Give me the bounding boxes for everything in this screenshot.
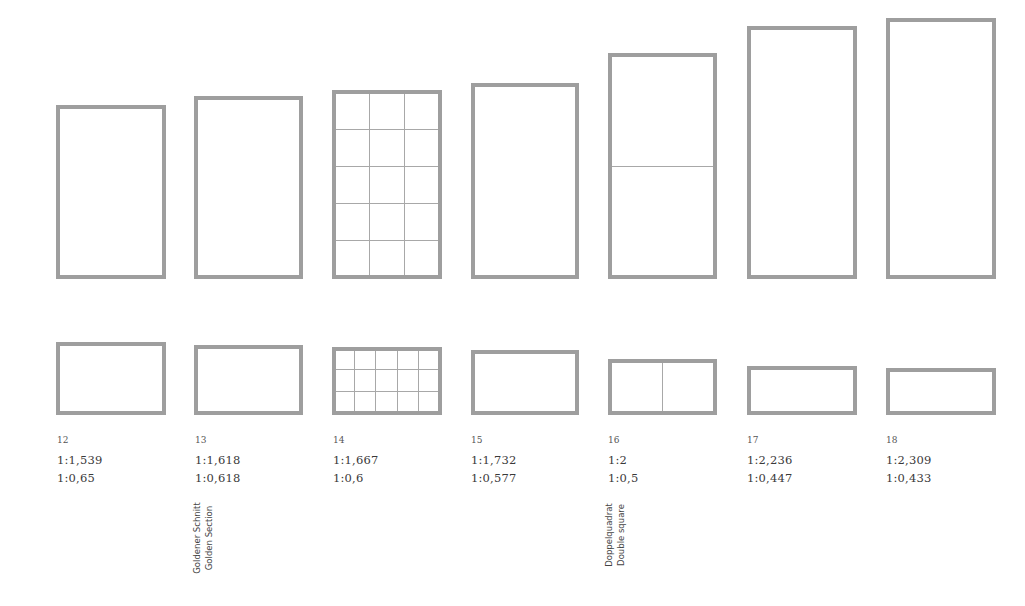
ratio-label: 1:1,667 xyxy=(333,453,379,467)
grid-line xyxy=(375,351,376,411)
inverse-ratio-label: 1:0,5 xyxy=(608,471,638,485)
portrait-rect-17 xyxy=(747,26,857,279)
landscape-rect-12 xyxy=(56,342,166,415)
landscape-rect-17 xyxy=(747,366,857,415)
grid-line xyxy=(336,369,438,370)
square-divider xyxy=(612,166,713,167)
portrait-rect-14-grid xyxy=(332,90,442,279)
square-divider xyxy=(662,363,663,411)
landscape-rect-16-double-square xyxy=(608,359,717,415)
figure-number: 16 xyxy=(608,435,619,445)
grid-line xyxy=(404,94,405,275)
inverse-ratio-label: 1:0,577 xyxy=(471,471,517,485)
grid-line xyxy=(418,351,419,411)
golden-section-label: Goldener Schnitt Golden Section xyxy=(191,493,217,583)
inverse-ratio-label: 1:0,618 xyxy=(195,471,241,485)
inverse-ratio-label: 1:0,447 xyxy=(747,471,793,485)
landscape-rect-13 xyxy=(194,345,303,415)
figure-number: 17 xyxy=(747,435,758,445)
ratio-label: 1:1,732 xyxy=(471,453,517,467)
label-german: Doppelquadrat xyxy=(603,490,615,580)
portrait-rect-16-double-square xyxy=(608,53,717,279)
grid-line xyxy=(336,129,438,130)
portrait-rect-13 xyxy=(194,96,303,279)
ratio-label: 1:2,236 xyxy=(747,453,793,467)
grid-line xyxy=(336,166,438,167)
grid-line xyxy=(336,391,438,392)
grid-line xyxy=(336,203,438,204)
figure-number: 13 xyxy=(195,435,206,445)
grid-line xyxy=(369,94,370,275)
grid-line xyxy=(336,240,438,241)
landscape-rect-14-grid xyxy=(332,347,442,415)
figure-number: 18 xyxy=(886,435,897,445)
portrait-rect-12 xyxy=(56,105,166,279)
label-english: Golden Section xyxy=(203,493,215,583)
figure-number: 14 xyxy=(333,435,344,445)
inverse-ratio-label: 1:0,65 xyxy=(57,471,95,485)
figure-number: 12 xyxy=(57,435,68,445)
portrait-rect-18 xyxy=(886,18,996,279)
inverse-ratio-label: 1:0,433 xyxy=(886,471,932,485)
ratio-label: 1:2,309 xyxy=(886,453,932,467)
ratio-label: 1:1,618 xyxy=(195,453,241,467)
grid-line xyxy=(397,351,398,411)
portrait-rect-15 xyxy=(471,83,579,279)
inverse-ratio-label: 1:0,6 xyxy=(333,471,363,485)
figure-number: 15 xyxy=(471,435,482,445)
label-english: Double square xyxy=(615,490,627,580)
ratio-label: 1:1,539 xyxy=(57,453,103,467)
landscape-rect-18 xyxy=(886,368,996,415)
grid-line xyxy=(354,351,355,411)
ratio-label: 1:2 xyxy=(608,453,627,467)
landscape-rect-15 xyxy=(471,350,579,415)
double-square-label: Doppelquadrat Double square xyxy=(603,490,629,580)
label-german: Goldener Schnitt xyxy=(191,493,203,583)
